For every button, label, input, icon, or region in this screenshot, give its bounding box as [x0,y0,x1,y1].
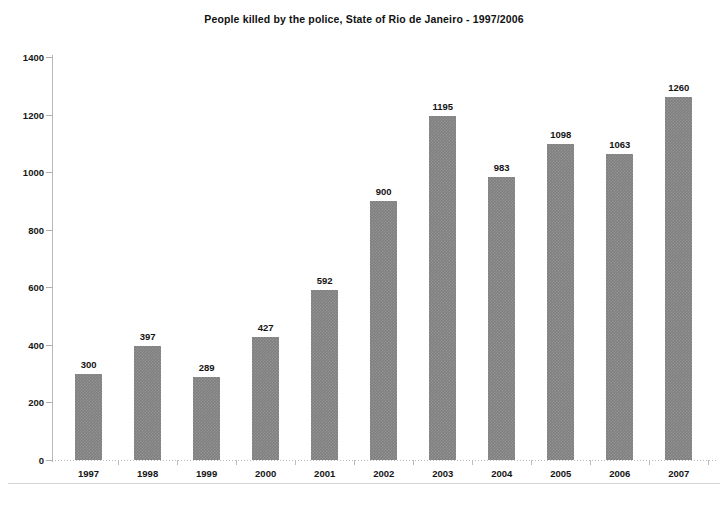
bar [429,116,456,460]
x-axis-tick [649,460,650,465]
bar-value-label: 289 [177,362,237,373]
x-axis-label: 1997 [59,468,119,479]
x-axis-tick [118,460,119,465]
bar-chart: People killed by the police, State of Ri… [0,0,728,506]
bar-value-label: 397 [118,331,178,342]
bar [193,377,220,460]
bar-value-label: 1195 [413,101,473,112]
x-axis-tick [413,460,414,465]
x-axis-tick [295,460,296,465]
bar [252,337,279,460]
bar [606,154,633,460]
x-axis-tick [590,460,591,465]
x-axis-tick [472,460,473,465]
bar-value-label: 983 [472,162,532,173]
bar-value-label: 1098 [531,129,591,140]
bar [134,346,161,460]
x-axis-label: 2002 [354,468,414,479]
x-axis-label: 2003 [413,468,473,479]
bar-value-label: 1260 [649,82,709,93]
bar [488,177,515,460]
y-axis-label: 800 [0,224,44,235]
y-axis-label: 1000 [0,167,44,178]
bar-value-label: 300 [59,359,119,370]
x-axis-label: 2007 [649,468,709,479]
bar [370,201,397,460]
x-axis-label: 2006 [590,468,650,479]
x-axis-label: 2001 [295,468,355,479]
x-axis-label: 1999 [177,468,237,479]
bar [547,144,574,460]
x-axis-label: 2005 [531,468,591,479]
bar-value-label: 592 [295,275,355,286]
y-axis-label: 0 [0,455,44,466]
bar [75,374,102,460]
chart-title: People killed by the police, State of Ri… [0,13,728,25]
x-axis-label: 2004 [472,468,532,479]
bar-value-label: 427 [236,322,296,333]
x-axis-tick [708,460,709,465]
plot-area [52,57,716,460]
bar-value-label: 1063 [590,139,650,150]
bottom-rule [8,483,720,484]
x-axis-tick [177,460,178,465]
y-axis-label: 1200 [0,109,44,120]
x-axis-tick [236,460,237,465]
bar [665,97,692,460]
y-axis-tick [46,460,53,461]
x-axis-tick [354,460,355,465]
x-axis-line [52,460,716,461]
y-axis-label: 400 [0,339,44,350]
bar [311,290,338,460]
bar-value-label: 900 [354,186,414,197]
y-axis-label: 600 [0,282,44,293]
y-axis-label: 200 [0,397,44,408]
x-axis-tick [531,460,532,465]
y-axis-label: 1400 [0,52,44,63]
x-axis-label: 1998 [118,468,178,479]
x-axis-label: 2000 [236,468,296,479]
